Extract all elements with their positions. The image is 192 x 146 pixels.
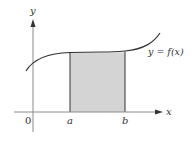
y-axis-arrow-icon	[31, 19, 36, 27]
interval-right-label: b	[122, 115, 128, 126]
x-axis-arrow-icon	[155, 110, 163, 115]
x-axis-label: x	[166, 106, 172, 117]
y-axis-label: y	[29, 5, 36, 16]
curve-label: y = f(x)	[147, 46, 184, 57]
origin-label: 0	[25, 115, 31, 126]
interval-left-label: a	[67, 115, 73, 126]
area-diagram: y x 0 a b y = f(x)	[0, 0, 192, 146]
shaded-rectangle	[70, 53, 125, 113]
